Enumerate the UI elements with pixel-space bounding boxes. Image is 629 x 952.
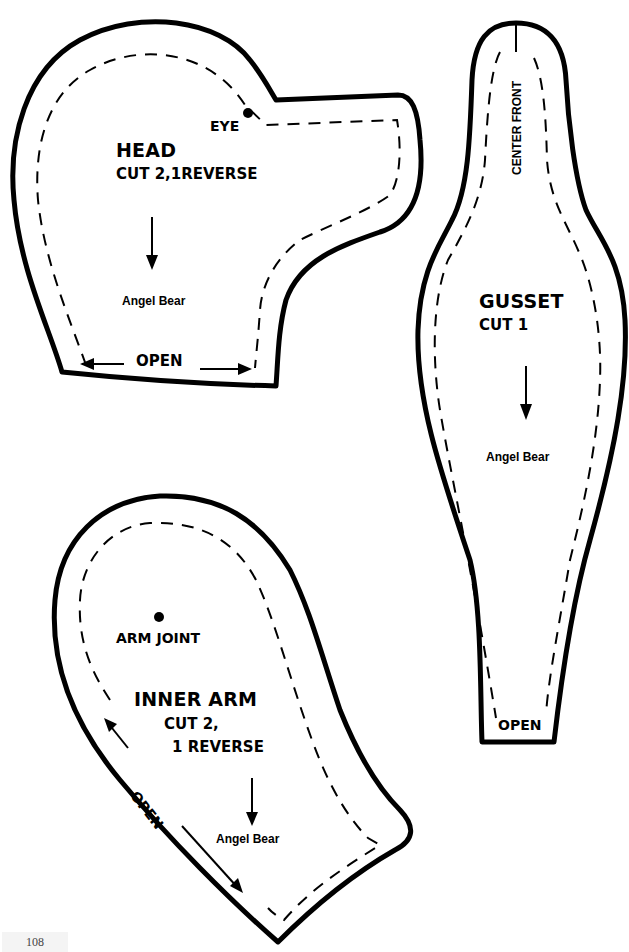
gusset-open-label: OPEN: [498, 717, 541, 733]
head-title: HEAD: [116, 139, 176, 161]
gusset-title: GUSSET: [479, 290, 564, 312]
inner-arm-seam-line: [80, 523, 380, 920]
inner-arm-piece: [54, 496, 410, 942]
page-number: 108: [2, 932, 68, 952]
head-open-label: OPEN: [136, 352, 183, 370]
grainline-arrowhead-icon: [146, 255, 158, 270]
head-cut-line: [13, 22, 421, 386]
head-brand-label: Angel Bear: [122, 294, 185, 308]
inner-arm-cut-line1: CUT 2,: [164, 715, 219, 733]
open-arrowhead-right-icon: [238, 363, 252, 375]
center-front-label: CENTER FRONT: [510, 81, 524, 175]
gusset-brand-label: Angel Bear: [486, 450, 549, 464]
open-arrowhead-up-icon: [104, 718, 117, 732]
eye-marker-icon: [243, 108, 253, 118]
inner-arm-brand-label: Angel Bear: [216, 832, 279, 846]
grainline-arrowhead-icon: [520, 404, 532, 420]
arm-joint-marker-icon: [154, 612, 164, 622]
inner-arm-cut-line2: 1 REVERSE: [172, 738, 264, 756]
head-cut-instructions: CUT 2,1REVERSE: [116, 165, 257, 183]
pattern-sheet: [0, 0, 629, 952]
inner-arm-title: INNER ARM: [134, 688, 257, 710]
gusset-seam-line-right: [534, 58, 600, 715]
head-seam-line: [37, 54, 399, 368]
eye-label: EYE: [210, 118, 239, 134]
open-arrowhead-left-icon: [80, 358, 94, 370]
inner-arm-cut-line: [54, 496, 410, 942]
gusset-cut-instructions: CUT 1: [479, 316, 528, 334]
head-piece: [13, 22, 421, 386]
grainline-arrowhead-icon: [246, 812, 258, 826]
arm-joint-label: ARM JOINT: [116, 630, 200, 646]
